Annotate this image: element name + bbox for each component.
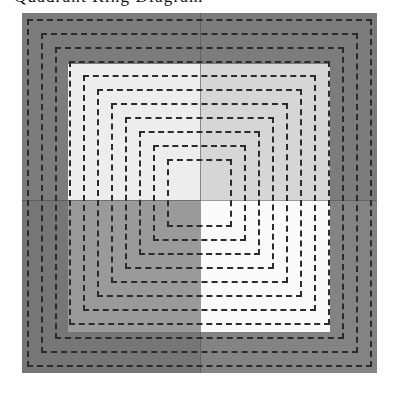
concentric-square-figure xyxy=(22,13,377,373)
dashed-ring-layer xyxy=(22,13,377,373)
quadrant-divider-vertical xyxy=(200,13,201,373)
figure-page: Quadrant Ring Diagram xyxy=(0,0,400,398)
caption-text: Quadrant Ring Diagram xyxy=(14,0,204,7)
caption-strip: Quadrant Ring Diagram xyxy=(0,0,400,13)
